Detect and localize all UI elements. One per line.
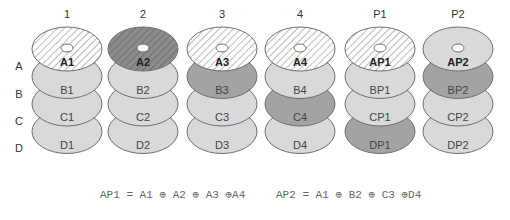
raid-6-diagram: D1C1B1A1D2C2B2A2D3C3B3A3D4C4B4A4DP1CP1BP… bbox=[0, 0, 510, 220]
disk-label: BP2 bbox=[448, 84, 469, 96]
disk-label: C2 bbox=[136, 111, 150, 123]
column-label-3: 3 bbox=[202, 8, 242, 20]
disk-label: A2 bbox=[136, 56, 150, 68]
parity-equations-p1: AP1 = A1 ⊕ A2 ⊕ A3 ⊕A4 BP1 = B1 ⊕ B2 ⊕ B… bbox=[100, 160, 245, 220]
disk-label: DP1 bbox=[369, 139, 390, 151]
disk-label: CP1 bbox=[369, 111, 390, 123]
disk-ap2: AP2 bbox=[423, 27, 493, 71]
disk-label: A1 bbox=[60, 56, 74, 68]
disk-label: B4 bbox=[293, 84, 306, 96]
disk-label: DP2 bbox=[447, 139, 468, 151]
disk-a2: A2 bbox=[108, 27, 178, 71]
spindle-hole-icon bbox=[216, 44, 228, 52]
disk-a3: A3 bbox=[187, 27, 257, 71]
disk-a1: A1 bbox=[32, 27, 102, 71]
row-label-d: D bbox=[12, 142, 26, 154]
disk-stack-2: D2C2B2A2 bbox=[108, 27, 178, 154]
spindle-hole-icon bbox=[294, 44, 306, 52]
disk-stack-4: D4C4B4A4 bbox=[265, 27, 335, 154]
disk-label: B3 bbox=[215, 84, 228, 96]
spindle-hole-icon bbox=[452, 44, 464, 52]
disk-label: C1 bbox=[60, 111, 74, 123]
disk-label: AP1 bbox=[369, 56, 390, 68]
disk-label: B1 bbox=[60, 84, 73, 96]
disk-label: AP2 bbox=[447, 56, 468, 68]
disk-stacks: D1C1B1A1D2C2B2A2D3C3B3A3D4C4B4A4DP1CP1BP… bbox=[0, 0, 510, 220]
parity-equations-p2: AP2 = A1 ⊕ B2 ⊕ C3 ⊕D4 BP2 = A2 ⊕ B3 ⊕ C… bbox=[276, 160, 428, 220]
disk-label: D4 bbox=[293, 139, 307, 151]
spindle-hole-icon bbox=[374, 44, 386, 52]
disk-label: C3 bbox=[215, 111, 229, 123]
row-label-b: B bbox=[12, 88, 26, 100]
disk-label: C4 bbox=[293, 111, 307, 123]
disk-stack-1: D1C1B1A1 bbox=[32, 27, 102, 154]
column-label-p2: P2 bbox=[438, 8, 478, 20]
disk-ap1: AP1 bbox=[345, 27, 415, 71]
row-label-a: A bbox=[12, 60, 26, 72]
equation-ap1: AP1 = A1 ⊕ A2 ⊕ A3 ⊕A4 bbox=[100, 188, 245, 202]
disk-label: CP2 bbox=[447, 111, 468, 123]
spindle-hole-icon bbox=[61, 44, 73, 52]
column-label-p1: P1 bbox=[360, 8, 400, 20]
disk-label: B2 bbox=[136, 84, 149, 96]
disk-label: A4 bbox=[293, 56, 308, 68]
disk-stack-3: D3C3B3A3 bbox=[187, 27, 257, 154]
disk-label: BP1 bbox=[370, 84, 391, 96]
column-label-1: 1 bbox=[47, 8, 87, 20]
disk-label: D1 bbox=[60, 139, 74, 151]
column-label-4: 4 bbox=[280, 8, 320, 20]
disk-a4: A4 bbox=[265, 27, 335, 71]
disk-stack-p2: DP2CP2BP2AP2 bbox=[423, 27, 493, 154]
disk-stack-p1: DP1CP1BP1AP1 bbox=[345, 27, 415, 154]
spindle-hole-icon bbox=[137, 44, 149, 52]
column-label-2: 2 bbox=[123, 8, 163, 20]
disk-label: D3 bbox=[215, 139, 229, 151]
disk-label: A3 bbox=[215, 56, 229, 68]
equation-ap2: AP2 = A1 ⊕ B2 ⊕ C3 ⊕D4 bbox=[276, 188, 428, 202]
row-label-c: C bbox=[12, 115, 26, 127]
disk-label: D2 bbox=[136, 139, 150, 151]
